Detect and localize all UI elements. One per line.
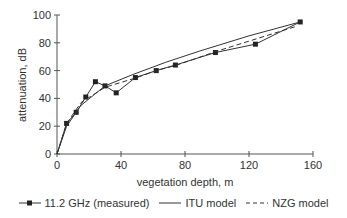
legend-item-nzg: NZG model	[246, 197, 328, 209]
chart: 04080120160020406080100 vegetation depth…	[0, 0, 347, 195]
solid-line-icon	[159, 199, 181, 207]
series-line-1	[57, 22, 300, 154]
x-tick-label: 80	[179, 159, 191, 171]
dashed-line-icon	[246, 199, 268, 207]
square-marker-icon	[133, 75, 138, 80]
square-marker-icon	[114, 90, 119, 95]
y-tick-label: 20	[39, 120, 51, 132]
x-tick-label: 40	[115, 159, 127, 171]
series-line-0	[57, 22, 300, 154]
legend-item-measured: 11.2 GHz (measured)	[19, 197, 150, 209]
x-axis-title: vegetation depth, m	[137, 176, 234, 188]
x-tick-label: 120	[240, 159, 258, 171]
legend: 11.2 GHz (measured) ITU model NZG model	[0, 197, 347, 209]
square-marker-icon	[253, 42, 258, 47]
y-tick-label: 60	[39, 65, 51, 77]
legend-label-measured: 11.2 GHz (measured)	[45, 197, 150, 209]
legend-item-itu: ITU model	[159, 197, 236, 209]
square-marker-icon	[93, 79, 98, 84]
axes: 04080120160020406080100	[33, 9, 323, 171]
legend-label-nzg: NZG model	[272, 197, 328, 209]
x-tick-label: 160	[304, 159, 322, 171]
y-axis-title: attenuation, dB	[16, 48, 28, 122]
series-layer	[57, 19, 303, 154]
line-with-square-marker-icon	[19, 199, 41, 207]
y-tick-label: 80	[39, 37, 51, 49]
y-tick-label: 0	[45, 148, 51, 160]
y-tick-label: 40	[39, 92, 51, 104]
y-tick-label: 100	[33, 9, 51, 21]
legend-label-itu: ITU model	[185, 197, 236, 209]
series-line-2	[57, 26, 297, 154]
x-tick-label: 0	[54, 159, 60, 171]
